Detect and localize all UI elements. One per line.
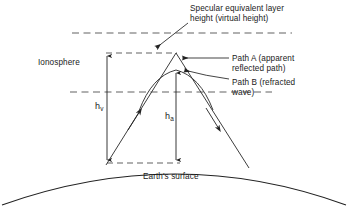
actual-height-symbol: ha xyxy=(165,111,174,121)
diagram-canvas xyxy=(0,0,348,224)
hv-subscript: v xyxy=(100,105,103,112)
earth-surface-label: Earth's surface xyxy=(143,172,199,182)
path-a-label: Path A (apparent reflected path) xyxy=(232,54,294,74)
ionosphere-label: Ionosphere xyxy=(38,58,80,68)
ionosphere-propagation-diagram: Specular equivalent layer height (virtua… xyxy=(0,0,348,224)
path-b-label: Path B (refracted wave) xyxy=(232,78,295,98)
path-a-up-direction-arrow xyxy=(128,111,140,130)
specular-label-leader-line xyxy=(156,23,188,48)
virtual-height-symbol: hv xyxy=(95,101,103,111)
specular-height-label: Specular equivalent layer height (virtua… xyxy=(190,4,284,24)
ha-subscript: a xyxy=(170,115,174,122)
